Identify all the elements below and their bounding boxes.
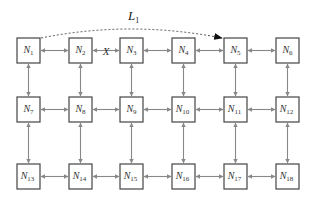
node-n18: N18 [276,164,299,189]
node-n3: N3 [120,38,143,63]
broken-link-marker: X [102,45,111,57]
node-n11: N11 [224,97,247,122]
node-n7: N7 [17,97,40,122]
node-n6: N6 [276,38,299,63]
node-n14: N14 [69,164,92,189]
node-n1: N1 [17,38,40,63]
links-layer: X [29,45,288,177]
node-n15: N15 [120,164,143,189]
node-n12: N12 [276,97,299,122]
node-n9: N9 [120,97,143,122]
node-n2: N2 [69,38,92,63]
logical-path-label: L1 [127,8,139,25]
node-n5: N5 [224,38,247,63]
logical-path-l1 [41,29,222,38]
nodes-layer: N1N2N3N4N5N6N7N8N9N10N11N12N13N14N15N16N… [17,38,299,189]
node-n16: N16 [172,164,195,189]
node-n13: N13 [17,164,40,189]
node-n17: N17 [224,164,247,189]
node-n8: N8 [69,97,92,122]
node-n4: N4 [172,38,195,63]
node-n10: N10 [172,97,195,122]
mesh-network-diagram: L1 X N1N2N3N4N5N6N7N8N9N10N11N12N13N14N1… [0,0,316,201]
